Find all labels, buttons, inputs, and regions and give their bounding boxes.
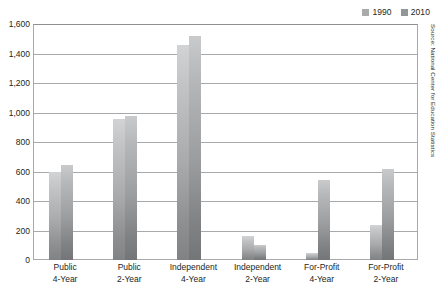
- source-note-text: Source: National Center for Education St…: [430, 24, 436, 157]
- x-tick-label-independent-2-year: Independent 2-Year: [226, 262, 290, 285]
- y-axis: 1,600 1,400 1,200 1,000 800 600 400 200 …: [0, 24, 30, 260]
- bar-chart: 1990 2010 1,600 1,400 1,200 1,000 800 60…: [0, 0, 444, 293]
- x-tick-label-for-profit-2-year: For-Profit 2-Year: [354, 262, 418, 285]
- bar-1990[interactable]: [177, 45, 189, 260]
- x-label-line-1: Independent: [226, 262, 290, 274]
- y-tick-label: 1,600: [9, 20, 30, 29]
- x-label-line-2: 2-Year: [226, 274, 290, 286]
- bar-1990[interactable]: [49, 172, 61, 260]
- bar-1990[interactable]: [113, 119, 125, 260]
- x-label-line-2: 2-Year: [97, 274, 161, 286]
- y-tick-label: 1,400: [9, 49, 30, 58]
- bar-2010[interactable]: [254, 245, 266, 260]
- x-label-line-2: 2-Year: [354, 274, 418, 286]
- x-label-line-1: For-Profit: [354, 262, 418, 274]
- y-tick-label: 0: [25, 256, 30, 265]
- x-label-line-2: 4-Year: [290, 274, 354, 286]
- chart-legend: 1990 2010: [362, 6, 430, 18]
- bar-1990[interactable]: [370, 225, 382, 260]
- bar-group-independent-2-year: [226, 24, 290, 260]
- x-tick-label-independent-4-year: Independent 4-Year: [161, 262, 225, 285]
- bar-group-public-2-year: [97, 24, 161, 260]
- x-label-line-1: Public: [33, 262, 97, 274]
- x-label-line-2: 4-Year: [33, 274, 97, 286]
- x-axis: Public 4-Year Public 2-Year Independent …: [33, 262, 418, 292]
- bar-group-for-profit-4-year: [290, 24, 354, 260]
- bars-layer: [33, 24, 418, 260]
- y-tick-label: 400: [16, 197, 30, 206]
- y-tick-label: 200: [16, 226, 30, 235]
- x-label-line-2: 4-Year: [161, 274, 225, 286]
- bar-2010[interactable]: [125, 116, 137, 260]
- x-label-line-1: Independent: [161, 262, 225, 274]
- legend-swatch-1990: [362, 9, 369, 16]
- bar-2010[interactable]: [382, 169, 394, 261]
- bar-group-independent-4-year: [161, 24, 225, 260]
- x-label-line-1: For-Profit: [290, 262, 354, 274]
- y-tick-label: 1,200: [9, 79, 30, 88]
- legend-label-2010: 2010: [411, 8, 430, 17]
- bar-1990[interactable]: [242, 236, 254, 260]
- x-tick-label-public-2-year: Public 2-Year: [97, 262, 161, 285]
- bar-group-public-4-year: [33, 24, 97, 260]
- legend-swatch-2010: [401, 9, 408, 16]
- legend-item-1990[interactable]: 1990: [362, 8, 391, 17]
- bar-2010[interactable]: [61, 165, 73, 260]
- legend-label-1990: 1990: [372, 8, 391, 17]
- x-label-line-1: Public: [97, 262, 161, 274]
- legend-item-2010[interactable]: 2010: [401, 8, 430, 17]
- bar-group-for-profit-2-year: [354, 24, 418, 260]
- source-note: Source: National Center for Education St…: [424, 24, 440, 204]
- y-tick-label: 600: [16, 167, 30, 176]
- y-tick-label: 1,000: [9, 108, 30, 117]
- y-tick-label: 800: [16, 138, 30, 147]
- x-tick-label-for-profit-4-year: For-Profit 4-Year: [290, 262, 354, 285]
- bar-2010[interactable]: [318, 180, 330, 260]
- bar-1990[interactable]: [306, 253, 318, 260]
- x-tick-label-public-4-year: Public 4-Year: [33, 262, 97, 285]
- bar-2010[interactable]: [189, 36, 201, 260]
